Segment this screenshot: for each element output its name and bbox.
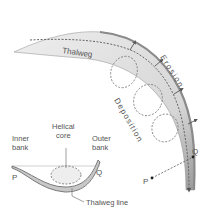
thalweg-line-label: Thalweg line — [86, 198, 128, 207]
outer-bank-label-2: bank — [92, 143, 109, 152]
outer-bank-label-1: Outer — [92, 134, 111, 143]
meander-diagram: Thalweg Erosion Deposition P Q Helical c… — [0, 0, 220, 215]
section-point-q: Q — [96, 168, 102, 177]
cross-section — [12, 148, 100, 202]
helical-core-label-2: core — [56, 131, 71, 140]
deposition-label: Deposition — [112, 97, 145, 145]
plan-point-q: Q — [192, 147, 198, 156]
inner-bank-label-2: bank — [12, 143, 29, 152]
section-point-p: P — [12, 173, 17, 182]
helical-core-label-1: Helical — [52, 122, 75, 131]
inner-bank-label-1: Inner — [12, 134, 30, 143]
plan-point-p: P — [143, 177, 148, 186]
